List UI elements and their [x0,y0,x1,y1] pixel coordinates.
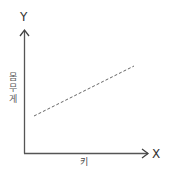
y-axis-label-char: 몸 [7,72,19,83]
x-axis-label: 키 [80,158,88,167]
chart-canvas [0,0,169,177]
trend-line [34,66,134,116]
y-axis-label-char: 무 [7,83,19,94]
y-axis-label-char: 게 [7,94,19,105]
y-axis-name: Y [20,11,27,23]
x-axis-name: X [152,148,160,160]
y-axis-label: 몸 무 게 [7,72,19,105]
